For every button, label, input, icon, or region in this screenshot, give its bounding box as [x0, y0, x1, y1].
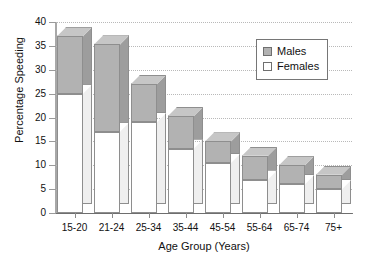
y-axis-tick	[49, 22, 56, 23]
y-axis-tick	[49, 213, 56, 214]
bar-segment-males[interactable]	[316, 175, 342, 189]
bar-front-face	[168, 149, 194, 213]
bar-segment-males[interactable]	[279, 165, 305, 184]
bar-segment-females[interactable]	[94, 132, 120, 213]
y-axis-tick-label: 15	[20, 136, 46, 146]
x-axis-tick	[334, 213, 335, 218]
y-axis-tick	[49, 46, 56, 47]
bar-segment-females[interactable]	[205, 163, 231, 213]
y-axis-tick	[49, 141, 56, 142]
bar-group[interactable]	[316, 22, 351, 213]
y-axis-tick	[49, 118, 56, 119]
bar-front-face	[242, 156, 268, 180]
bar-front-face	[205, 141, 231, 162]
bar-segment-females[interactable]	[279, 184, 305, 213]
bar-side-face	[83, 85, 92, 204]
bar-segment-females[interactable]	[316, 189, 342, 213]
bar-side-face	[157, 113, 166, 204]
bar-group[interactable]	[168, 22, 203, 213]
bar-group[interactable]	[131, 22, 166, 213]
y-axis-tick	[49, 94, 56, 95]
bar-side-face	[194, 140, 203, 204]
x-axis-tick	[112, 213, 113, 218]
bar-front-face	[205, 163, 231, 213]
y-axis-tick-label: 40	[20, 17, 46, 27]
y-axis-tick-label: 25	[20, 89, 46, 99]
bar-segment-males[interactable]	[94, 44, 120, 131]
bar-segment-males[interactable]	[205, 141, 231, 162]
bar-front-face	[131, 122, 157, 213]
bar-side-face	[120, 123, 129, 204]
bar-segment-females[interactable]	[242, 180, 268, 213]
y-axis-tick-label: 0	[20, 208, 46, 218]
bar-side-face	[83, 27, 92, 84]
y-axis-tick	[49, 70, 56, 71]
bar-segment-males[interactable]	[242, 156, 268, 180]
bar-segment-females[interactable]	[131, 122, 157, 213]
chart-container: Percentage Speeding Age Group (Years) Ma…	[0, 0, 372, 263]
x-axis-tick	[149, 213, 150, 218]
y-axis-tick-label: 35	[20, 41, 46, 51]
bar-front-face	[94, 44, 120, 131]
bar-front-face	[242, 180, 268, 213]
y-axis-tick	[49, 189, 56, 190]
bar-side-face	[342, 180, 351, 204]
x-axis-tick-label: 75+	[306, 222, 362, 233]
bar-group[interactable]	[94, 22, 129, 213]
bar-group[interactable]	[242, 22, 277, 213]
y-axis-tick	[49, 165, 56, 166]
bar-front-face	[279, 184, 305, 213]
x-axis-tick	[297, 213, 298, 218]
bar-group[interactable]	[57, 22, 92, 213]
bar-segment-males[interactable]	[168, 116, 194, 148]
bar-front-face	[316, 189, 342, 213]
x-axis-tick	[186, 213, 187, 218]
bar-side-face	[305, 175, 314, 204]
bar-front-face	[94, 132, 120, 213]
bar-segment-females[interactable]	[57, 94, 83, 213]
bar-front-face	[316, 175, 342, 189]
bar-segment-females[interactable]	[168, 149, 194, 213]
bar-side-face	[120, 35, 129, 122]
x-axis-tick	[260, 213, 261, 218]
bar-side-face	[268, 171, 277, 204]
gridline	[56, 213, 352, 214]
bar-side-face	[231, 154, 240, 204]
x-axis-title: Age Group (Years)	[56, 240, 352, 252]
bar-group[interactable]	[279, 22, 314, 213]
bar-segment-males[interactable]	[57, 36, 83, 93]
y-axis-tick-label: 30	[20, 65, 46, 75]
bar-segment-males[interactable]	[131, 84, 157, 122]
bar-front-face	[279, 165, 305, 184]
bar-front-face	[131, 84, 157, 122]
y-axis-tick-label: 10	[20, 160, 46, 170]
y-axis-tick-label: 20	[20, 113, 46, 123]
bar-front-face	[57, 36, 83, 93]
x-axis-tick	[223, 213, 224, 218]
x-axis-tick	[75, 213, 76, 218]
bar-group[interactable]	[205, 22, 240, 213]
bar-front-face	[57, 94, 83, 213]
bar-front-face	[168, 116, 194, 148]
y-axis-tick-label: 5	[20, 184, 46, 194]
